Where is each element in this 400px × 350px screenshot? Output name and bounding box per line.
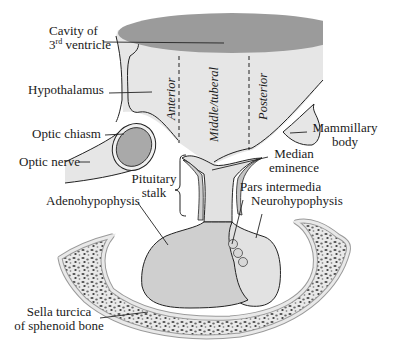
label-mammillary-body: Mammillary body — [311, 121, 379, 149]
diagram-artwork — [0, 0, 400, 350]
label-pars-intermedia: Pars intermedia — [240, 180, 321, 194]
region-label-middle-tuberal: Middle/tuberal — [207, 67, 222, 142]
ventricle-word: ventricle — [62, 37, 111, 52]
label-hypothalamus: Hypothalamus — [28, 83, 104, 97]
region-label-anterior: Anterior — [164, 78, 179, 120]
label-mammillary-line1: Mammillary — [311, 121, 379, 135]
label-median-line2: eminence — [266, 161, 322, 175]
label-optic-nerve: Optic nerve — [19, 155, 80, 169]
label-cavity-3rd-ventricle: Cavity of 3rd ventricle — [49, 24, 111, 52]
label-stalk-line1: Pituitary — [128, 172, 180, 186]
third-ventricle-cavity — [118, 13, 346, 53]
label-cavity-line2: 3rd ventricle — [49, 38, 111, 52]
label-sella-turcica: Sella turcica of sphenoid bone — [14, 305, 104, 333]
label-median-eminence: Median eminence — [266, 147, 322, 175]
label-optic-chiasm: Optic chiasm — [32, 127, 101, 141]
pituitary-diagram: Cavity of 3rd ventricle Hypothalamus Opt… — [0, 0, 400, 350]
region-label-posterior: Posterior — [256, 73, 271, 120]
label-adenohypophysis: Adenohypophysis — [46, 194, 140, 208]
label-sella-line1: Sella turcica — [14, 305, 104, 319]
label-sella-line2: of sphenoid bone — [14, 319, 104, 333]
label-median-line1: Median — [266, 147, 322, 161]
label-neurohypophysis: Neurohypophysis — [251, 194, 343, 208]
